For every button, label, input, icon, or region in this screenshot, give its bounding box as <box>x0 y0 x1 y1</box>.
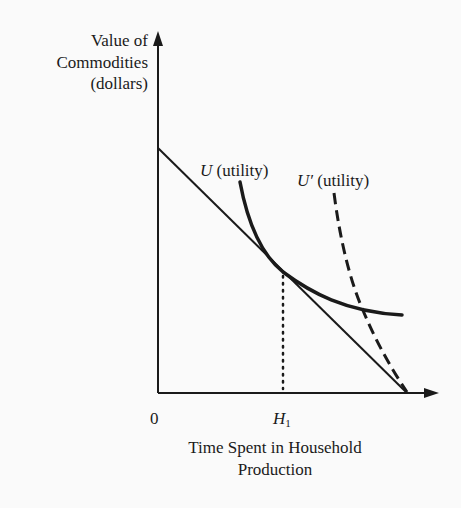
curve-label-u-prime: U′ (utility) <box>297 170 369 191</box>
x-axis-label-line-1: Time Spent in Household <box>180 437 370 459</box>
utility-curve-u <box>240 182 402 315</box>
curve-label-u: U (utility) <box>200 160 268 181</box>
household-production-diagram: Value of Commodities (dollars) U (utilit… <box>0 0 461 508</box>
x-axis-arrow-icon <box>424 388 439 398</box>
y-axis-label-line-3: (dollars) <box>56 73 148 95</box>
curve-u-prime-symbol: U′ <box>297 171 313 190</box>
y-axis-label-line-2: Commodities <box>56 52 148 74</box>
y-axis-label-line-1: Value of <box>56 30 148 52</box>
utility-curve-u-prime <box>334 193 407 392</box>
curve-u-prime-text: (utility) <box>313 171 369 190</box>
h1-sub: 1 <box>285 417 291 429</box>
curve-u-text: (utility) <box>212 161 268 180</box>
x-axis-label-line-2: Production <box>180 459 370 481</box>
h1-main: H <box>273 409 285 428</box>
x-axis-label: Time Spent in Household Production <box>180 437 370 481</box>
y-axis-arrow-icon <box>153 31 163 46</box>
h1-tick-label: H1 <box>273 408 291 434</box>
y-axis-label: Value of Commodities (dollars) <box>56 30 148 95</box>
origin-label: 0 <box>150 408 159 429</box>
curve-u-symbol: U <box>200 161 212 180</box>
